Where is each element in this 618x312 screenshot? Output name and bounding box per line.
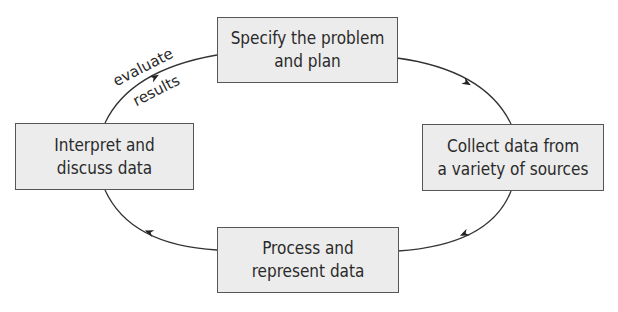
node-text-line1: Collect data from <box>438 135 589 158</box>
node-interpret-data: Interpret and discuss data <box>15 123 194 190</box>
arrow-collect-to-process <box>398 191 511 251</box>
arrow-process-to-interpret <box>105 190 217 250</box>
arrowhead-icon <box>455 76 467 83</box>
node-text-line1: Interpret and <box>54 134 155 157</box>
node-text-line2: a variety of sources <box>438 158 589 181</box>
arrowhead-icon <box>464 229 475 234</box>
node-text-line2: discuss data <box>54 157 155 180</box>
node-collect-data: Collect data from a variety of sources <box>422 124 604 191</box>
node-specify-problem: Specify the problem and plan <box>217 17 398 83</box>
node-text-line1: Specify the problem <box>231 27 385 50</box>
arrow-specify-to-collect <box>397 58 511 124</box>
node-text-line2: represent data <box>252 260 365 283</box>
node-text-line2: and plan <box>231 50 385 73</box>
node-text-line1: Process and <box>252 237 365 260</box>
node-process-data: Process and represent data <box>217 227 399 293</box>
